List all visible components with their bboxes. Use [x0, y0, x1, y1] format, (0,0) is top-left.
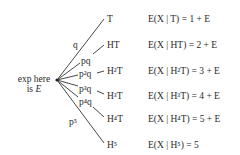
- expectation-H2T: E(X | H²T) = 3 + E: [148, 66, 220, 76]
- expectation-H4T: E(X | H⁴T) = 5 + E: [148, 114, 220, 124]
- prob-label-p2q: p²q: [79, 69, 91, 79]
- edge-p4q-b: [93, 107, 104, 117]
- root-label-line2: is E: [12, 84, 56, 94]
- edge-p3q-b: [97, 91, 104, 94]
- root-label: exp here is E: [12, 74, 56, 94]
- expectation-HT: E(X | HT) = 2 + E: [148, 40, 217, 50]
- expectation-T: E(X | T) = 1 + E: [148, 14, 210, 24]
- root-var: E: [35, 84, 41, 94]
- prob-label-p3q: p³q: [79, 84, 91, 94]
- root-label-line1: exp here: [12, 74, 56, 84]
- edge-pq-b: [93, 45, 104, 54]
- outcome-H4T: H⁴T: [107, 114, 123, 124]
- expectation-H3T: E(X | H³T) = 4 + E: [148, 91, 220, 101]
- prob-label-pq: pq: [81, 56, 91, 66]
- prob-label-p5: p⁵: [69, 117, 77, 127]
- outcome-HT: HT: [107, 40, 120, 50]
- expectation-H5: E(X | H⁵) = 5: [148, 140, 199, 150]
- prob-label-p4q: p⁴q: [79, 97, 92, 107]
- outcome-T: T: [107, 14, 113, 24]
- edge-p2q-b: [97, 71, 104, 73]
- outcome-H2T: H²T: [107, 66, 123, 76]
- prob-label-q: q: [73, 40, 78, 50]
- outcome-H5: H⁵: [107, 140, 117, 150]
- outcome-H3T: H³T: [107, 91, 123, 101]
